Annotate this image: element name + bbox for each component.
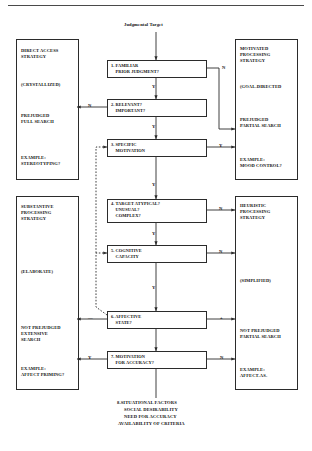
left-top-example-label: EXAMPLE: bbox=[21, 155, 46, 160]
footer-line-2: SOCIAL DESIRABILITY bbox=[124, 407, 178, 413]
edge-label-q2-no: N bbox=[88, 103, 91, 109]
diagram-title: Judgmental Target bbox=[124, 22, 163, 28]
left-bottom-strategy-label: SUBSTANTIVE bbox=[21, 204, 54, 209]
edge-label-q5-yes: Y bbox=[152, 285, 155, 291]
decision-box-6-line-1: 6. AFFECTIVE bbox=[111, 314, 141, 319]
footer-line-1: 8.SITUATIONAL FACTORS bbox=[117, 400, 177, 406]
edge-label-q3-yes: Y bbox=[219, 143, 222, 149]
decision-box-7-line-2: FOR ACCURACY? bbox=[111, 360, 154, 365]
decision-box-4-line-2: UNUSUAL? bbox=[111, 207, 139, 212]
right-bottom-search-label: NOT PREJUDGED bbox=[240, 328, 280, 333]
decision-box-4-line-3: COMPLEX? bbox=[111, 213, 141, 218]
decision-box-3-line-2: MOTIVATION bbox=[111, 148, 145, 153]
edge-label-q6-positive: + bbox=[220, 315, 223, 321]
decision-box-2-line-1: 2. RELEVANT? bbox=[111, 102, 142, 107]
left-bottom-example-label: EXAMPLE: bbox=[21, 366, 46, 371]
decision-box-2-line-2: IMPORTANT? bbox=[111, 108, 145, 113]
decision-box-1-line-2: PRIOR JUDGMENT? bbox=[111, 69, 159, 74]
decision-box-3-line-1: 3. SPECIFIC bbox=[111, 142, 136, 147]
edge-label-q5-no: N bbox=[219, 249, 222, 255]
right-bottom-search-label-2: PARTIAL SEARCH bbox=[240, 334, 281, 339]
left-top-example-value: STEREOTYPING? bbox=[21, 161, 60, 166]
decision-box-5-line-1: 5. COGNITIVE bbox=[111, 248, 142, 253]
footer-line-4: AVAILABILITY OF CRITERIA bbox=[118, 421, 185, 427]
edge-label-q1-yes: Y bbox=[152, 84, 155, 90]
left-top-qualifier: (CRYSTALLIZED) bbox=[21, 82, 60, 87]
decision-box-7-line-1: 7. MOTIVATION bbox=[111, 354, 145, 359]
left-bottom-strategy-label-2: PROCESSING bbox=[21, 210, 51, 215]
right-bottom-strategy-label-3: STRATEGY bbox=[240, 215, 265, 220]
edge-label-q7-no: N bbox=[220, 355, 223, 361]
right-bottom-example-value: AFFECT-AS- bbox=[240, 373, 267, 378]
edge-label-q2-yes: Y bbox=[152, 124, 155, 130]
edge-label-q1-no: N bbox=[222, 65, 225, 71]
edge-label-q3-yes-down: Y bbox=[152, 182, 155, 188]
flowchart-diagram: Judgmental Target DIRECT ACCESS STRATEGY… bbox=[0, 0, 312, 451]
left-top-strategy-label: DIRECT ACCESS bbox=[21, 48, 58, 53]
left-bottom-search-label-3: SEARCH bbox=[21, 337, 40, 342]
edge-label-q4-yes: Y bbox=[152, 231, 155, 237]
left-bottom-search-label-2: EXTENSIVE bbox=[21, 331, 48, 336]
left-panel-substantive-processing bbox=[16, 196, 79, 390]
left-top-strategy-label-2: STRATEGY bbox=[21, 54, 46, 59]
right-top-strategy-label-3: STRATEGY bbox=[240, 58, 265, 63]
left-bottom-strategy-label-3: STRATEGY bbox=[21, 216, 46, 221]
right-bottom-qualifier: (SIMPLIFIED) bbox=[240, 278, 271, 283]
decision-box-4-line-1: 4. TARGET ATYPICAL? bbox=[111, 201, 160, 206]
right-bottom-strategy-label-2: PROCESSING bbox=[240, 209, 270, 214]
left-bottom-search-label: NOT PREJUDGED bbox=[21, 325, 61, 330]
left-bottom-example-value: AFFECT PRIMING? bbox=[21, 372, 64, 377]
decision-box-1-line-1: 1. FAMILIAR bbox=[111, 63, 138, 68]
edge-label-q4-no: N bbox=[219, 206, 222, 212]
left-top-search-label: PREJUDGED bbox=[21, 113, 49, 118]
right-top-example-value: MOOD CONTROL? bbox=[240, 163, 282, 168]
right-top-qualifier: (GOAL-DIRECTED bbox=[240, 84, 281, 89]
footer-line-3: NEED FOR ACCURACY bbox=[124, 414, 177, 420]
right-top-strategy-label: MOTIVATED bbox=[240, 46, 268, 51]
left-bottom-qualifier: (ELABORATE) bbox=[21, 269, 53, 274]
right-top-search-label-2: PARTIAL SEARCH bbox=[240, 123, 281, 128]
edge-label-q6-negative: — bbox=[88, 315, 93, 321]
decision-box-6-line-2: STATE? bbox=[111, 320, 132, 325]
right-top-example-label: EXAMPLE: bbox=[240, 157, 265, 162]
decision-box-5-line-2: CAPACITY bbox=[111, 254, 139, 259]
right-top-strategy-label-2: PROCESSING bbox=[240, 52, 270, 57]
right-panel-heuristic-processing bbox=[235, 196, 298, 390]
edge-label-q7-yes: Y bbox=[88, 355, 91, 361]
right-bottom-example-label: EXAMPLE: bbox=[240, 367, 265, 372]
right-top-search-label: PREJUDGED bbox=[240, 117, 268, 122]
left-top-search-label-2: FULL SEARCH bbox=[21, 119, 54, 124]
right-bottom-strategy-label: HEURISTIC bbox=[240, 203, 266, 208]
